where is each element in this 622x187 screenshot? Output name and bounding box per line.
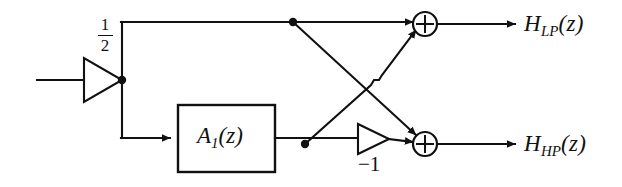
neg-one-to-adder-line [389,139,413,142]
signal-flow-diagram: 1 2 A1(z) −1 HLP(z) HHP(z) [0,0,622,187]
allpass-label-main: A [197,123,211,148]
output-hp-subscript: HP [541,143,561,159]
output-lp-label: HLP(z) [524,12,584,39]
output-hp-argument: (z) [561,131,586,156]
half-gain-triangle [84,58,122,102]
tap-node-bottom [301,140,309,148]
allpass-block-label: A1(z) [197,124,243,151]
half-gain-denominator: 2 [92,37,118,55]
output-hp-label: HHP(z) [524,132,586,159]
output-lp-argument: (z) [558,11,583,36]
output-lp-main: H [524,11,541,36]
output-hp-main: H [524,131,541,156]
allpass-label-argument: (z) [219,123,243,148]
half-gain-numerator: 1 [92,16,118,34]
tap-node-top [289,18,297,26]
neg-one-gain-triangle [358,124,389,154]
split-node-main [118,76,126,84]
allpass-label-subscript: 1 [211,135,219,151]
neg-one-gain-label: −1 [358,154,380,175]
output-lp-subscript: LP [541,23,559,39]
cross-line-top-to-bottom-adder [293,22,416,135]
half-gain-label: 1 2 [92,16,118,55]
